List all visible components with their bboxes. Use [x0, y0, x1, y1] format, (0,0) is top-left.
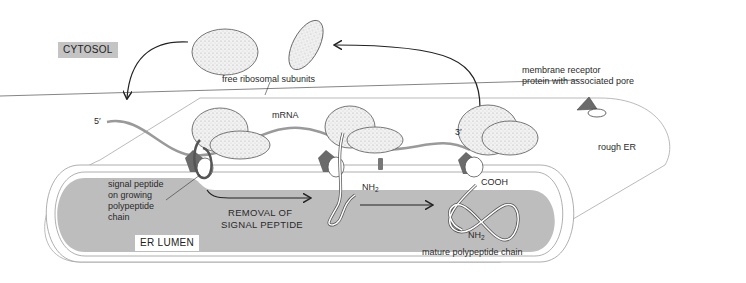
- signal-peptide-label-4: chain: [108, 212, 130, 223]
- cooh-label: COOH: [481, 177, 508, 188]
- five-prime-label: 5′: [94, 116, 101, 127]
- nh2-label-1: NH2: [362, 182, 379, 195]
- signal-peptide-label-2: on growing: [108, 190, 152, 201]
- rough-er-label: rough ER: [598, 142, 636, 153]
- signal-peptide-label-3: polypeptide: [108, 201, 154, 212]
- cytosol-label: CYTOSOL: [58, 42, 118, 58]
- signal-peptide-label-1: signal peptide: [108, 179, 164, 190]
- free-subunits-label: free ribosomal subunits: [222, 74, 315, 85]
- mature-chain-label: mature polypeptide chain: [422, 247, 523, 258]
- mrna-label: mRNA: [272, 110, 299, 121]
- small-subunit: [282, 15, 330, 75]
- er-lumen-label: ER LUMEN: [135, 235, 199, 251]
- receptor-label-1: membrane receptor: [522, 65, 601, 76]
- cleaved-signal-peptide: [378, 158, 383, 170]
- three-prime-label: 3′: [455, 127, 462, 138]
- receptor-label-2: protein with associated pore: [522, 76, 634, 87]
- removal-label-2: SIGNAL PEPTIDE: [221, 219, 303, 231]
- large-subunit: [192, 29, 258, 75]
- nh2-label-2: NH2: [468, 230, 485, 243]
- removal-label-1: REMOVAL OF: [228, 207, 292, 219]
